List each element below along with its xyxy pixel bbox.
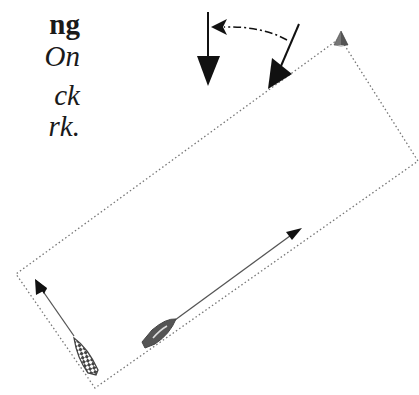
wind-arrow-slanted-icon xyxy=(268,24,299,89)
sailing-diagram xyxy=(0,0,419,395)
wind-arrow-vertical-icon xyxy=(197,12,220,86)
left-boat-course-arrow-icon xyxy=(35,279,74,336)
right-boat-course-arrow-icon xyxy=(175,228,302,320)
course-area-outline xyxy=(16,38,418,388)
gray-boat-icon xyxy=(142,319,176,348)
mark-icon xyxy=(334,31,348,46)
checkered-boat-icon xyxy=(74,338,98,375)
wind-shift-arrow-icon xyxy=(211,19,287,40)
